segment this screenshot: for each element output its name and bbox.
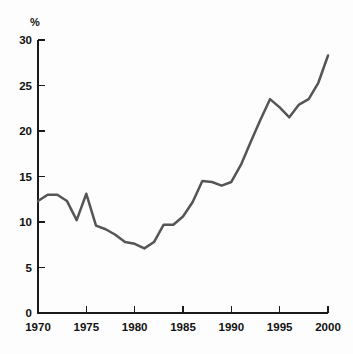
x-tick-label-1980: 1980	[122, 321, 148, 333]
x-tick-label-2000: 2000	[315, 321, 341, 333]
y-axis-unit-text: %	[30, 16, 40, 28]
line-chart: 0510152025301970197519801985199019952000…	[0, 0, 353, 354]
y-tick-label-25: 25	[19, 80, 32, 92]
y-axis-unit-label: %	[30, 16, 40, 28]
y-tick-label-30: 30	[19, 34, 32, 46]
x-tick-label-1970: 1970	[25, 321, 51, 333]
x-tick-label-1995: 1995	[267, 321, 293, 333]
x-tick-label-1985: 1985	[170, 321, 196, 333]
y-tick-label-0: 0	[26, 307, 32, 319]
x-tick-label-1990: 1990	[219, 321, 245, 333]
y-tick-label-10: 10	[19, 216, 32, 228]
y-tick-label-5: 5	[26, 262, 33, 274]
y-tick-label-15: 15	[19, 171, 32, 183]
x-tick-label-1975: 1975	[74, 321, 100, 333]
plot-background	[0, 0, 353, 354]
y-tick-label-20: 20	[19, 125, 32, 137]
chart-container: 0510152025301970197519801985199019952000…	[0, 0, 353, 354]
